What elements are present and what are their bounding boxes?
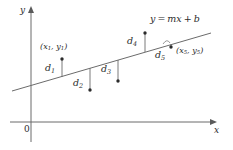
x-axis-label: x — [214, 126, 219, 135]
least-squares-figure: y x 0 y=mx+b (x1, y1) (x5, y5) d1 d2 d3 … — [0, 0, 233, 150]
origin-label: 0 — [24, 125, 30, 134]
equation-m: m — [167, 13, 176, 24]
equation-b: b — [194, 13, 200, 24]
deviation-label-d4: d4 — [127, 36, 137, 47]
y-axis-arrow-icon — [28, 6, 34, 13]
p1-close: ) — [64, 42, 67, 51]
equation-equals: = — [157, 13, 165, 24]
deviation-label-d5: d5 — [155, 50, 165, 61]
data-point-4 — [143, 31, 146, 34]
deviation-label-d3: d3 — [101, 64, 111, 75]
data-point-3 — [116, 79, 119, 82]
d1-sub: 1 — [51, 67, 55, 75]
d5-leader-line — [163, 41, 170, 44]
p5-close: ) — [200, 46, 203, 55]
data-point-1 — [60, 57, 63, 60]
point-label-1: (x1, y1) — [40, 43, 67, 52]
d5-sub: 5 — [161, 54, 165, 62]
equation-plus: + — [184, 13, 192, 24]
equation-x: x — [176, 13, 181, 24]
d3-sub: 3 — [107, 68, 111, 76]
d2-sub: 2 — [79, 82, 83, 90]
d4-sub: 4 — [133, 40, 137, 48]
deviation-label-d1: d1 — [45, 63, 55, 74]
data-point-2 — [88, 88, 91, 91]
y-axis-label: y — [20, 6, 25, 15]
data-point-5 — [169, 45, 172, 48]
deviation-label-d2: d2 — [73, 78, 83, 89]
equation-y: y — [150, 13, 155, 24]
point-label-5: (x5, y5) — [176, 47, 203, 56]
line-equation-label: y=mx+b — [150, 14, 200, 24]
